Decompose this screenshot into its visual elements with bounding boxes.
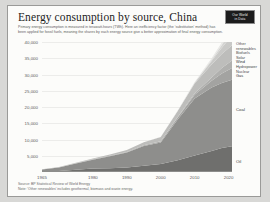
x-axis-tick-label: 2000 bbox=[156, 175, 166, 180]
y-axis-tick-label: 40,000 bbox=[25, 40, 38, 45]
y-axis-tick-label: 25,000 bbox=[25, 88, 38, 93]
y-axis-tick-label: 20,000 bbox=[25, 105, 38, 110]
chart-card: Energy consumption by source, China Prim… bbox=[7, 5, 261, 197]
legend-item-gas[interactable]: Gas bbox=[236, 74, 261, 79]
legend-top-group[interactable]: OtherrenewablesBiofuelsSolarWindHydropow… bbox=[236, 42, 261, 79]
page-title: Energy consumption by source, China bbox=[18, 11, 213, 23]
y-axis-tick-label: 35,000 bbox=[25, 56, 38, 61]
x-axis-tick-label: 1980 bbox=[88, 175, 98, 180]
y-axis-tick-label: 15,000 bbox=[25, 121, 38, 126]
owid-logo[interactable]: Our World in Data bbox=[225, 10, 255, 24]
owid-logo-line2: in Data bbox=[235, 17, 246, 21]
chart-subtitle: Primary energy consumption is measured i… bbox=[18, 25, 223, 34]
legend-item-oil[interactable]: Oil bbox=[236, 159, 241, 164]
x-axis-tick-label: 2010 bbox=[190, 175, 200, 180]
legend-item-coal[interactable]: Coal bbox=[236, 107, 245, 112]
stacked-area-series bbox=[42, 42, 232, 172]
chart-plot-area: 5,00010,00015,00020,00025,00030,00035,00… bbox=[42, 42, 232, 172]
x-axis-tick-label: 2020 bbox=[224, 175, 234, 180]
y-axis-tick-label: 30,000 bbox=[25, 72, 38, 77]
chart-footer: Source: BP Statistical Review of World E… bbox=[18, 182, 218, 191]
y-axis-tick-label: 5,000 bbox=[27, 153, 38, 158]
x-axis-line bbox=[42, 171, 232, 172]
y-axis-tick-label: 10,000 bbox=[25, 137, 38, 142]
x-axis-tick-label: 1965 bbox=[37, 175, 47, 180]
x-axis-tick-label: 1990 bbox=[122, 175, 132, 180]
note-line: Note: 'Other renewables' includes geothe… bbox=[18, 187, 218, 191]
